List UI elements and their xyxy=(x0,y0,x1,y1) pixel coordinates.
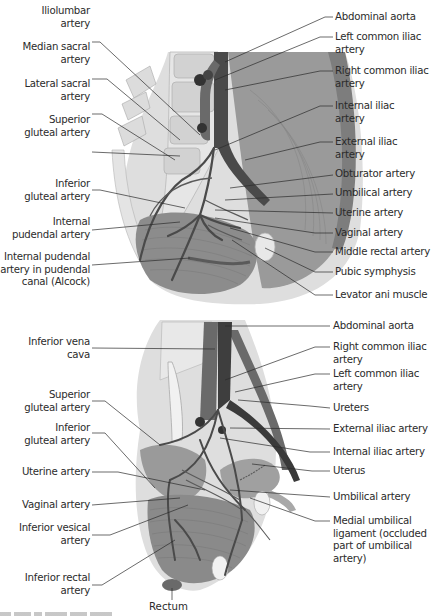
label-line: Right common iliac xyxy=(333,341,427,354)
label-line: artery xyxy=(0,535,90,548)
label-abdominal-aorta: Abdominal aorta xyxy=(335,11,416,24)
label-uterine-artery: Uterine artery xyxy=(335,207,403,220)
label-line: Left common iliac xyxy=(335,31,421,44)
label-uterus: Uterus xyxy=(333,465,365,478)
label-inferior-rectal-artery: Inferior rectal artery xyxy=(0,572,90,597)
label-inferior-gluteal-artery-2: Inferior gluteal artery xyxy=(0,422,90,447)
label-inferior-gluteal-artery: Inferior gluteal artery xyxy=(0,178,90,203)
label-vaginal-artery: Vaginal artery xyxy=(335,227,403,240)
label-line: Internal iliac artery xyxy=(333,446,425,459)
label-line: gluteal artery xyxy=(0,435,90,448)
cropped-caption-line xyxy=(0,612,140,616)
label-line: Inferior xyxy=(0,178,90,191)
label-line: artery xyxy=(0,585,90,598)
top-panel-drawing xyxy=(112,52,363,304)
label-external-iliac-artery-2: External iliac artery xyxy=(333,423,428,436)
label-line: Umbilical artery xyxy=(333,491,410,504)
label-uterine-artery-2: Uterine artery xyxy=(0,466,90,479)
label-line: Inferior rectal xyxy=(0,572,90,585)
label-inferior-vena-cava: Inferior vena cava xyxy=(0,336,90,361)
label-umbilical-artery: Umbilical artery xyxy=(335,187,412,200)
label-medial-umbilical-ligament: Medial umbilical ligament (occluded part… xyxy=(333,515,427,565)
label-line: artery xyxy=(0,54,90,67)
label-inferior-vesical-artery: Inferior vesical artery xyxy=(0,522,90,547)
label-abdominal-aorta-2: Abdominal aorta xyxy=(333,320,414,333)
label-iliolumbar-artery: Iliolumbar artery xyxy=(0,5,90,30)
label-line: Iliolumbar xyxy=(0,5,90,18)
label-line: Vaginal artery xyxy=(335,227,403,240)
label-line: Left common iliac xyxy=(333,368,419,381)
label-line: Superior xyxy=(0,389,90,402)
label-line: Lateral sacral xyxy=(0,78,90,91)
label-left-common-iliac-artery-2: Left common iliac artery xyxy=(333,368,419,393)
label-line: artery xyxy=(335,149,397,162)
label-line: artery xyxy=(0,18,90,31)
label-pubic-symphysis: Pubic symphysis xyxy=(335,266,415,279)
label-line: Uterine artery xyxy=(0,466,90,479)
label-internal-iliac-artery-2: Internal iliac artery xyxy=(333,446,425,459)
label-line: Uterus xyxy=(333,465,365,478)
label-line: Abdominal aorta xyxy=(333,320,414,333)
label-line: Internal xyxy=(0,216,90,229)
label-line: ligament (occluded xyxy=(333,528,427,541)
label-line: Median sacral xyxy=(0,41,90,54)
label-line: Abdominal aorta xyxy=(335,11,416,24)
label-line: gluteal artery xyxy=(0,191,90,204)
label-right-common-iliac-artery-2: Right common iliac artery xyxy=(333,341,427,366)
label-internal-pudendal-artery: Internal pudendal artery xyxy=(0,216,90,241)
label-line: External iliac artery xyxy=(333,423,428,436)
label-umbilical-artery-2: Umbilical artery xyxy=(333,491,410,504)
label-middle-rectal-artery: Middle rectal artery xyxy=(335,246,430,259)
label-line: Inferior vesical xyxy=(0,522,90,535)
label-line: Medial umbilical xyxy=(333,515,427,528)
label-line: Internal pudendal xyxy=(0,251,90,264)
label-vaginal-artery-2: Vaginal artery xyxy=(0,499,90,512)
label-line: Ureters xyxy=(333,402,369,415)
label-line: artery xyxy=(333,381,419,394)
label-line: artery in pudendal xyxy=(0,264,90,277)
label-external-iliac-artery: External iliac artery xyxy=(335,136,397,161)
label-line: canal (Alcock) xyxy=(0,276,90,289)
label-line: artery xyxy=(335,78,429,91)
label-line: artery xyxy=(0,91,90,104)
bottom-panel-drawing xyxy=(136,320,300,591)
label-rectum: Rectum xyxy=(149,601,188,612)
label-line: Right common iliac xyxy=(335,65,429,78)
label-line: Inferior vena xyxy=(0,336,90,349)
label-line: pudendal artery xyxy=(0,229,90,242)
label-right-common-iliac-artery: Right common iliac artery xyxy=(335,65,429,90)
label-line: Superior xyxy=(0,114,90,127)
label-line: Internal iliac xyxy=(335,100,394,113)
label-line: gluteal artery xyxy=(0,127,90,140)
label-line: artery) xyxy=(333,553,427,566)
label-line: Pubic symphysis xyxy=(335,266,415,279)
label-line: cava xyxy=(0,349,90,362)
label-line: Vaginal artery xyxy=(0,499,90,512)
label-line: Middle rectal artery xyxy=(335,246,430,259)
label-line: Inferior xyxy=(0,422,90,435)
label-line: artery xyxy=(333,354,427,367)
label-line: Uterine artery xyxy=(335,207,403,220)
label-line: artery xyxy=(335,113,394,126)
label-ureters: Ureters xyxy=(333,402,369,415)
label-internal-pudendal-artery-alcock: Internal pudendal artery in pudendal can… xyxy=(0,251,90,289)
label-line: gluteal artery xyxy=(0,402,90,415)
label-line: Umbilical artery xyxy=(335,187,412,200)
label-left-common-iliac-artery: Left common iliac artery xyxy=(335,31,421,56)
label-superior-gluteal-artery: Superior gluteal artery xyxy=(0,114,90,139)
label-obturator-artery: Obturator artery xyxy=(335,168,415,181)
label-lateral-sacral-artery: Lateral sacral artery xyxy=(0,78,90,103)
label-line: Levator ani muscle xyxy=(335,289,427,302)
label-superior-gluteal-artery-2: Superior gluteal artery xyxy=(0,389,90,414)
label-median-sacral-artery: Median sacral artery xyxy=(0,41,90,66)
label-line: part of umbilical xyxy=(333,540,427,553)
label-levator-ani-muscle: Levator ani muscle xyxy=(335,289,427,302)
label-line: Obturator artery xyxy=(335,168,415,181)
label-internal-iliac-artery: Internal iliac artery xyxy=(335,100,394,125)
label-line: External iliac xyxy=(335,136,397,149)
label-line: artery xyxy=(335,44,421,57)
